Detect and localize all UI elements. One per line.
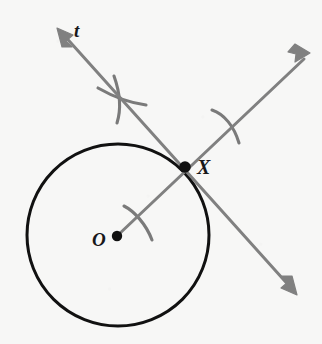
geometry-figure: t X O: [0, 0, 322, 344]
arc-mark-lower-left: [124, 206, 152, 240]
label-point-x: X: [197, 157, 210, 177]
tangent-line-t: [57, 28, 297, 295]
label-point-o: O: [92, 230, 106, 249]
arc-mark-upper-right: [212, 110, 239, 143]
cross-mark-upper-left: [114, 76, 120, 123]
geometry-canvas: [0, 0, 322, 344]
label-tangent-line-t: t: [74, 21, 79, 40]
point-O-dot: [112, 231, 122, 241]
arc-mark-upper-left: [98, 88, 146, 105]
point-X-dot: [179, 161, 191, 173]
radius-ray: [117, 44, 310, 236]
radius-ray-arrowhead: [288, 44, 310, 62]
tangent-line-segment: [62, 33, 292, 289]
